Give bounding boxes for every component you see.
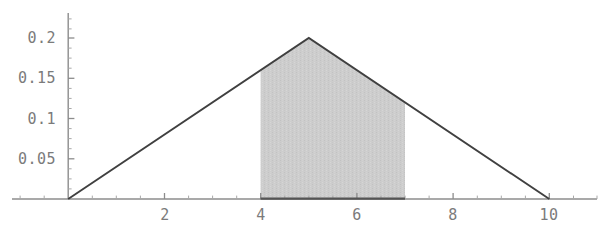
y-tick-label-0.2: 0.2 <box>0 31 56 46</box>
x-tick-label-10: 10 <box>539 208 558 223</box>
y-tick-label-0.1: 0.1 <box>0 112 56 127</box>
triangular-distribution-chart: 0.2 0.15 0.1 0.05 2 4 6 8 10 <box>0 0 609 249</box>
x-tick-label-8: 8 <box>448 208 458 223</box>
shaded-area-region <box>261 38 405 199</box>
x-tick-label-6: 6 <box>352 208 362 223</box>
chart-canvas <box>0 0 609 249</box>
x-tick-label-4: 4 <box>256 208 266 223</box>
y-tick-label-0.05: 0.05 <box>0 152 56 167</box>
x-tick-label-2: 2 <box>160 208 170 223</box>
y-tick-label-0.15: 0.15 <box>0 71 56 86</box>
